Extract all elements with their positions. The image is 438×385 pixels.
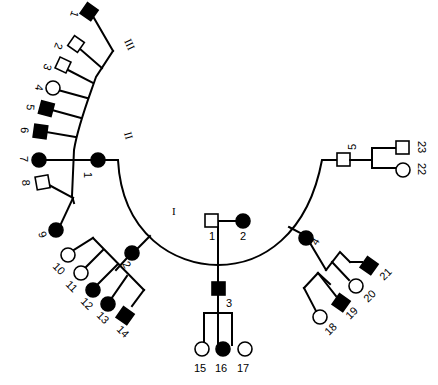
label-I-1: 1	[209, 230, 215, 242]
label-III-1: 1	[68, 9, 81, 19]
individual-II-5[interactable]: 5	[337, 144, 358, 166]
sibship-line-II-4	[304, 273, 330, 288]
generation-label-I: I	[172, 205, 176, 217]
individual-II-1[interactable]: 1	[82, 153, 105, 178]
label-III-2: 2	[52, 41, 65, 51]
individual-III-16[interactable]: 16	[215, 342, 230, 374]
label-III-6: 6	[19, 127, 31, 134]
male-unaffected-symbol	[337, 153, 350, 166]
label-II-1: 1	[82, 172, 94, 178]
male-affected-symbol	[33, 124, 48, 139]
individual-III-15[interactable]: 15	[194, 342, 209, 374]
female-unaffected-symbol	[313, 310, 327, 324]
label-III-20: 20	[361, 287, 378, 304]
individual-III-23[interactable]: 23	[396, 141, 428, 154]
male-affected-symbol	[116, 307, 134, 325]
individual-III-18[interactable]: 18	[304, 288, 339, 337]
female-unaffected-symbol	[349, 279, 363, 293]
male-affected-symbol	[212, 282, 225, 295]
pedigree-chart: I II III 1 2 1 2 3 4 5	[0, 0, 438, 385]
individual-III-22[interactable]: 22	[396, 163, 428, 177]
male-affected-symbol	[360, 257, 378, 275]
generation-label-II: II	[122, 130, 136, 141]
label-III-21: 21	[377, 265, 394, 282]
label-III-14: 14	[115, 323, 132, 340]
generation-label-III: III	[122, 37, 138, 52]
female-affected-symbol	[236, 214, 250, 228]
label-III-23: 23	[416, 141, 428, 153]
label-III-3: 3	[41, 62, 54, 72]
male-unaffected-symbol	[396, 141, 409, 154]
female-affected-symbol	[49, 223, 63, 237]
individual-III-6[interactable]: 6	[19, 124, 48, 139]
individual-III-7[interactable]: 7	[18, 153, 46, 167]
individual-III-9[interactable]: 9	[36, 223, 63, 239]
label-III-9: 9	[36, 230, 49, 240]
label-III-7: 7	[18, 156, 30, 162]
male-unaffected-symbol	[205, 214, 218, 227]
individual-III-4[interactable]: 4	[33, 81, 60, 95]
label-III-17: 17	[237, 362, 249, 374]
sibship-arc-II	[104, 160, 337, 265]
female-unaffected-symbol	[46, 81, 60, 95]
label-II-5: 5	[346, 144, 358, 150]
individual-III-13[interactable]: 13	[95, 297, 115, 326]
mating-line-I	[218, 221, 236, 283]
label-I-2: 2	[240, 230, 246, 242]
individual-III-14[interactable]: 14	[115, 307, 135, 340]
female-affected-symbol	[91, 153, 105, 167]
female-affected-symbol	[32, 153, 46, 167]
individual-III-8[interactable]: 8	[20, 175, 50, 190]
individual-III-11[interactable]: 11	[64, 266, 88, 294]
label-III-15: 15	[194, 362, 206, 374]
sibship-line-II-5	[372, 148, 396, 168]
individual-II-3[interactable]: 3	[212, 282, 232, 309]
individual-III-12[interactable]: 12	[79, 283, 100, 312]
individual-II-2[interactable]: 2	[120, 246, 139, 270]
individual-III-20[interactable]: 20	[349, 279, 378, 304]
label-III-22: 22	[416, 163, 428, 175]
individual-III-3[interactable]: 3	[41, 57, 71, 73]
label-II-3: 3	[226, 297, 232, 309]
label-III-8: 8	[20, 179, 32, 186]
individual-I-1[interactable]: 1	[205, 214, 218, 242]
individual-III-2[interactable]: 2	[52, 36, 84, 53]
label-III-16: 16	[215, 362, 227, 374]
individual-III-10[interactable]: 10	[51, 248, 75, 277]
label-III-10: 10	[51, 260, 68, 277]
female-affected-symbol	[216, 342, 230, 356]
label-III-4: 4	[33, 84, 46, 92]
male-affected-symbol	[80, 3, 98, 21]
female-unaffected-symbol	[238, 342, 252, 356]
label-III-11: 11	[64, 278, 81, 295]
female-unaffected-symbol	[74, 266, 88, 280]
individual-III-5[interactable]: 5	[24, 101, 54, 117]
label-III-5: 5	[24, 104, 36, 111]
female-unaffected-symbol	[396, 163, 410, 177]
individual-III-17[interactable]: 17	[237, 342, 252, 374]
individual-I-2[interactable]: 2	[236, 214, 250, 242]
male-affected-symbol	[38, 101, 54, 117]
female-unaffected-symbol	[61, 248, 75, 262]
male-unaffected-symbol	[35, 175, 50, 190]
female-unaffected-symbol	[195, 342, 209, 356]
